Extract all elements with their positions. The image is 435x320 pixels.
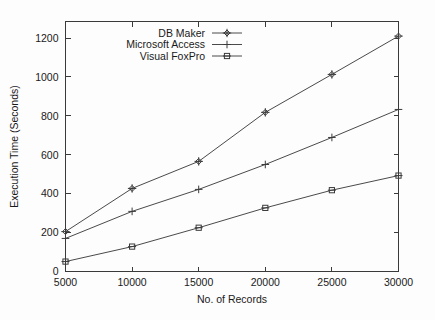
data-point-square-marker (128, 244, 136, 249)
data-point-diamond-marker (128, 184, 136, 192)
series-visual-foxpro (62, 173, 403, 264)
line-chart: 020040060080010001200 500010000150002000… (0, 0, 435, 320)
x-tick-label: 10000 (117, 276, 146, 288)
data-point-plus-marker (328, 134, 336, 142)
x-axis-tick-labels: 50001000015000200002500030000 (54, 276, 413, 288)
data-point-square-marker (328, 188, 336, 193)
y-tick-label: 1200 (35, 32, 59, 44)
data-point-diamond-marker (394, 32, 402, 40)
data-point-square-marker (261, 205, 269, 210)
legend-label-microsoft-access: Microsoft Access (126, 38, 205, 50)
series-db-maker (61, 32, 402, 236)
data-point-plus-marker (62, 235, 70, 243)
x-tick-label: 30000 (384, 276, 413, 288)
plot-frame (66, 22, 399, 272)
legend-label-visual-foxpro: Visual FoxPro (140, 50, 205, 62)
axis-ticks (66, 22, 399, 272)
chart-container: 020040060080010001200 500010000150002000… (0, 0, 435, 320)
x-tick-label: 25000 (317, 276, 346, 288)
y-tick-label: 1000 (35, 71, 59, 83)
series-microsoft-access (62, 106, 403, 243)
data-point-plus-marker (395, 106, 403, 114)
y-tick-label: 400 (41, 187, 59, 199)
x-tick-label: 5000 (54, 276, 78, 288)
data-point-diamond-marker (61, 227, 69, 235)
data-point-plus-marker (223, 41, 231, 49)
y-tick-label: 200 (41, 226, 59, 238)
data-point-square-marker (195, 225, 203, 230)
y-tick-label: 800 (41, 110, 59, 122)
legend-label-db-maker: DB Maker (158, 27, 205, 39)
y-axis-tick-labels: 020040060080010001200 (35, 32, 59, 277)
data-point-diamond-marker (223, 29, 231, 37)
chart-legend: DB MakerMicrosoft AccessVisual FoxPro (126, 27, 242, 62)
data-point-diamond-marker (195, 157, 203, 165)
y-axis-title: Execution Time (Seconds) (8, 85, 20, 208)
data-series-group (61, 32, 402, 264)
data-point-square-marker (223, 53, 231, 58)
data-point-diamond-marker (261, 108, 269, 116)
data-point-plus-marker (262, 161, 270, 169)
y-tick-label: 600 (41, 149, 59, 161)
data-point-plus-marker (195, 186, 203, 194)
x-tick-label: 15000 (184, 276, 213, 288)
x-axis-title: No. of Records (197, 293, 267, 305)
x-tick-label: 20000 (251, 276, 280, 288)
data-point-plus-marker (128, 208, 136, 216)
data-point-diamond-marker (328, 70, 336, 78)
